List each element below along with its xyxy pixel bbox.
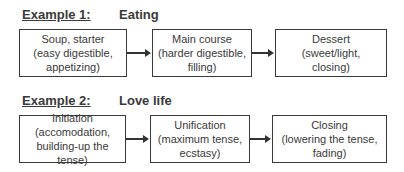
step-text: (sweet/light, (302, 46, 361, 60)
step-text: ecstasy) (180, 146, 221, 160)
example-1-step-1: Soup, starter (easy digestible, appetizi… (19, 29, 127, 77)
step-text: Unification (174, 118, 225, 132)
step-text: Soup, starter (42, 32, 105, 46)
step-text: Dessert (312, 32, 350, 46)
example-2-step-1: Initiation (accomodation, building-up th… (19, 115, 126, 163)
example-2-topic: Love life (119, 93, 172, 108)
step-text: (harder digestible, (158, 46, 246, 60)
step-text: closing) (312, 60, 350, 74)
example-1-step-3: Dessert (sweet/light, closing) (275, 29, 387, 77)
example-2-step-2: Unification (maximum tense, ecstasy) (150, 115, 250, 163)
arrow-right-icon (252, 52, 272, 54)
step-text: fading) (313, 146, 347, 160)
example-1-label: Example 1: (22, 7, 91, 22)
arrow-right-icon (250, 138, 269, 140)
step-text: (lowering the tense, (282, 132, 378, 146)
example-2-step-3: Closing (lowering the tense, fading) (272, 115, 387, 163)
step-text: filling) (188, 60, 217, 74)
step-text: (easy digestible, (33, 46, 113, 60)
example-2-label: Example 2: (22, 93, 91, 108)
arrow-right-icon (127, 52, 149, 54)
step-text: (accomodation, (35, 125, 110, 139)
example-1-topic: Eating (119, 7, 159, 22)
step-text: Main course (172, 32, 232, 46)
step-text: appetizing) (46, 60, 100, 74)
step-text: building-up the tense) (20, 139, 125, 167)
example-1-step-2: Main course (harder digestible, filling) (152, 29, 252, 77)
arrow-right-icon (126, 138, 147, 140)
step-text: Initiation (52, 111, 93, 125)
step-text: (maximum tense, (158, 132, 242, 146)
step-text: Closing (311, 118, 348, 132)
